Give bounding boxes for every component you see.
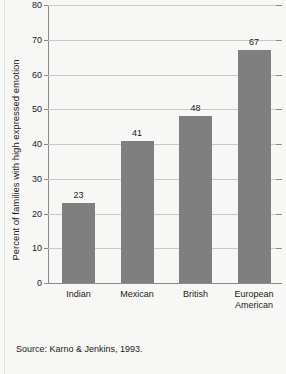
y-axis-tick-right xyxy=(276,75,282,76)
y-axis-tick xyxy=(44,283,48,284)
y-axis-tick-label: 50 xyxy=(32,105,42,114)
y-axis-tick-right xyxy=(276,109,282,110)
bar-value-label: 48 xyxy=(167,103,224,113)
page-gutter-rule xyxy=(4,0,5,374)
x-axis-tick-label-line: European xyxy=(225,289,284,300)
y-axis-tick-label: 10 xyxy=(32,244,42,253)
x-axis-tick-label: EuropeanAmerican xyxy=(225,289,284,311)
x-axis-tick-label-line: Mexican xyxy=(108,289,167,300)
source-note: Source: Karno & Jenkins, 1993. xyxy=(16,344,143,355)
gridline xyxy=(48,5,282,6)
y-axis-tick xyxy=(44,214,48,215)
bar xyxy=(179,116,212,283)
y-axis-tick-right xyxy=(276,248,282,249)
y-axis-tick-label: 40 xyxy=(32,140,42,149)
x-axis-tick-label-line: British xyxy=(166,289,225,300)
y-axis-tick xyxy=(44,144,48,145)
y-axis-tick-right xyxy=(276,5,282,6)
bar-value-label: 41 xyxy=(109,128,166,138)
bar xyxy=(121,141,154,283)
y-axis-tick xyxy=(44,75,48,76)
y-axis-tick-label: 30 xyxy=(32,174,42,183)
x-axis-tick-label-line: Indian xyxy=(49,289,108,300)
x-axis-line xyxy=(48,283,282,284)
x-axis-tick-label: British xyxy=(166,289,225,300)
y-axis-tick xyxy=(44,40,48,41)
x-axis-tick-label: Mexican xyxy=(108,289,167,300)
y-axis-tick-right xyxy=(276,179,282,180)
bar-value-label: 67 xyxy=(226,37,283,47)
y-axis-tick-right xyxy=(276,214,282,215)
y-axis-tick-label: 60 xyxy=(32,70,42,79)
x-axis-tick-label-line: American xyxy=(225,300,284,311)
y-axis-tick-label: 80 xyxy=(32,1,42,10)
y-axis-tick-label: 70 xyxy=(32,35,42,44)
y-axis-tick xyxy=(44,179,48,180)
y-axis-tick-right xyxy=(276,144,282,145)
y-axis-tick xyxy=(44,109,48,110)
y-axis-tick xyxy=(44,5,48,6)
y-axis-tick-label: 0 xyxy=(37,279,42,288)
bar-value-label: 23 xyxy=(50,190,107,200)
x-axis-tick-label: Indian xyxy=(49,289,108,300)
bar xyxy=(62,203,95,283)
y-axis-title: Percent of families with high expressed … xyxy=(8,21,24,299)
y-axis-tick xyxy=(44,248,48,249)
y-axis-tick-label: 20 xyxy=(32,209,42,218)
bar xyxy=(238,50,271,283)
figure-bar-chart: Percent of families with high expressed … xyxy=(0,0,286,374)
